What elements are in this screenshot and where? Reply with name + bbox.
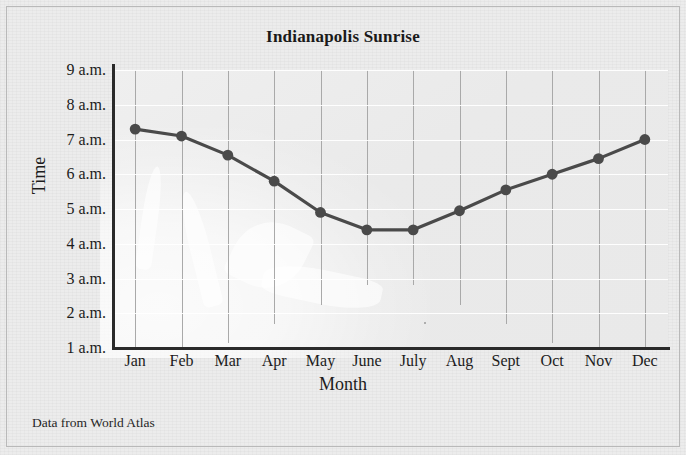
y-tick-label: 8 a.m. xyxy=(36,96,106,114)
x-tick-label: May xyxy=(306,352,335,370)
y-tick-label: 4 a.m. xyxy=(36,235,106,253)
x-tick-label: Mar xyxy=(215,352,242,370)
x-tick-label: July xyxy=(400,352,427,370)
data-point-dec xyxy=(639,134,650,145)
data-point-aug xyxy=(454,205,465,216)
x-tick-label: Oct xyxy=(541,352,564,370)
x-tick-label: Jan xyxy=(124,352,145,370)
chart-figure: Indianapolis Sunrise 9 a.m.8 a.m.7 a.m.6… xyxy=(0,0,686,455)
scan-speck xyxy=(424,322,426,324)
x-axis-title: Month xyxy=(0,374,686,395)
chart-title: Indianapolis Sunrise xyxy=(0,27,686,47)
data-point-mar xyxy=(222,150,233,161)
data-point-july xyxy=(408,224,419,235)
data-point-apr xyxy=(269,176,280,187)
x-tick-label: Aug xyxy=(446,352,474,370)
x-tick-label: Dec xyxy=(632,352,658,370)
data-point-may xyxy=(315,207,326,218)
y-tick-label: 3 a.m. xyxy=(36,270,106,288)
data-point-jan xyxy=(130,124,141,135)
x-tick-label: Nov xyxy=(585,352,613,370)
data-point-nov xyxy=(593,153,604,164)
series-line xyxy=(135,129,645,230)
x-axis-line xyxy=(112,347,670,350)
data-point-feb xyxy=(176,131,187,142)
source-note: Data from World Atlas xyxy=(32,415,155,431)
sunrise-series xyxy=(112,70,668,348)
y-tick-label: 2 a.m. xyxy=(36,304,106,322)
data-point-june xyxy=(361,224,372,235)
y-axis-title: Time xyxy=(29,121,50,231)
data-point-sept xyxy=(500,184,511,195)
x-tick-label: Sept xyxy=(492,352,520,370)
plot-area xyxy=(112,70,668,348)
y-tick-label: 9 a.m. xyxy=(36,61,106,79)
y-tick-label: 1 a.m. xyxy=(36,339,106,357)
x-tick-label: June xyxy=(352,352,381,370)
x-tick-label: Feb xyxy=(170,352,194,370)
x-tick-label: Apr xyxy=(262,352,287,370)
data-point-oct xyxy=(547,169,558,180)
y-axis-line xyxy=(112,64,115,350)
